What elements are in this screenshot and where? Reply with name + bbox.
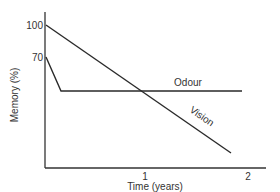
vision-label: Vision	[188, 104, 216, 129]
odour-line	[46, 57, 242, 91]
x-tick-2: 2	[245, 171, 251, 182]
y-tick-70: 70	[32, 52, 44, 63]
odour-label: Odour	[174, 77, 202, 88]
y-axis-label: Memory (%)	[9, 68, 20, 122]
chart: 100 70 1 2 Time (years) Memory (%) Odour…	[0, 0, 280, 192]
x-axis-label: Time (years)	[127, 181, 183, 192]
y-tick-100: 100	[26, 20, 43, 31]
vision-line	[46, 25, 231, 153]
